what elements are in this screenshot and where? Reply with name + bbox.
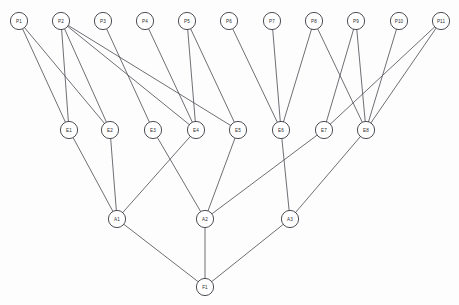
node-f1[interactable]: F1 [196, 278, 213, 295]
node-label-e7: E7 [321, 128, 327, 133]
node-p4[interactable]: P4 [136, 12, 153, 29]
graph-svg: P1P2P3P4P5P6P7P8P9P10P11E1E2E3E4E5E6E7E8… [0, 0, 459, 305]
node-label-p11: P11 [437, 19, 445, 24]
node-label-a1: A1 [114, 217, 120, 222]
node-e6[interactable]: E6 [272, 121, 289, 138]
node-a2[interactable]: A2 [196, 210, 213, 227]
edge-e1-to-a1 [73, 138, 113, 212]
edge-a3-to-f1 [212, 224, 284, 281]
node-label-e4: E4 [193, 128, 199, 133]
node-label-p6: P6 [226, 19, 232, 24]
edge-p1-to-e1 [23, 29, 66, 122]
edge-p3-to-e3 [107, 29, 150, 122]
node-p1[interactable]: P1 [10, 12, 27, 29]
edge-e2-to-a1 [111, 139, 117, 211]
node-label-e1: E1 [66, 128, 72, 133]
node-p9[interactable]: P9 [347, 12, 364, 29]
edge-p5-to-e4 [188, 30, 196, 122]
edge-p2-to-e5 [68, 26, 230, 126]
edges-layer [23, 26, 437, 282]
node-label-p10: P10 [395, 19, 404, 24]
node-label-p9: P9 [353, 19, 359, 24]
node-p3[interactable]: P3 [94, 12, 111, 29]
edge-p2-to-e1 [62, 30, 69, 122]
edge-p7-to-e6 [273, 30, 281, 122]
node-p6[interactable]: P6 [220, 12, 237, 29]
node-a1[interactable]: A1 [108, 210, 125, 227]
node-label-f1: F1 [202, 285, 208, 290]
node-p11[interactable]: P11 [432, 12, 449, 29]
node-e3[interactable]: E3 [144, 121, 161, 138]
edge-p2-to-e2 [65, 29, 107, 122]
edge-e8-to-a3 [296, 137, 361, 213]
node-label-p3: P3 [100, 19, 106, 24]
node-p8[interactable]: P8 [305, 12, 322, 29]
edge-e4-to-a1 [123, 136, 191, 212]
edge-p9-to-e7 [326, 29, 353, 122]
node-label-p8: P8 [311, 19, 317, 24]
node-label-e3: E3 [150, 128, 156, 133]
edge-p9-to-e8 [357, 30, 365, 122]
node-label-e6: E6 [278, 128, 284, 133]
edge-p11-to-e7 [330, 27, 434, 124]
node-label-p1: P1 [16, 19, 22, 24]
edge-p8-to-e6 [283, 29, 311, 122]
edge-p6-to-e6 [233, 29, 278, 122]
edge-a1-to-f1 [124, 224, 198, 281]
node-label-e2: E2 [107, 128, 113, 133]
node-e4[interactable]: E4 [187, 121, 204, 138]
node-p7[interactable]: P7 [263, 12, 280, 29]
node-label-p4: P4 [142, 19, 148, 24]
node-e2[interactable]: E2 [101, 121, 118, 138]
edge-p5-to-e5 [191, 29, 235, 122]
node-e8[interactable]: E8 [357, 121, 374, 138]
node-label-a2: A2 [202, 217, 208, 222]
edge-p4-to-e4 [149, 29, 193, 122]
node-e1[interactable]: E1 [60, 121, 77, 138]
node-p2[interactable]: P2 [52, 12, 69, 29]
node-e7[interactable]: E7 [315, 121, 332, 138]
node-a3[interactable]: A3 [281, 210, 298, 227]
edge-p1-to-e2 [25, 28, 105, 124]
diagram-canvas: P1P2P3P4P5P6P7P8P9P10P11E1E2E3E4E5E6E7E8… [0, 0, 459, 305]
node-p5[interactable]: P5 [178, 12, 195, 29]
edge-e6-to-a3 [282, 139, 289, 211]
edge-e7-to-a2 [212, 135, 317, 214]
node-e5[interactable]: E5 [229, 121, 246, 138]
node-label-e8: E8 [363, 128, 369, 133]
edge-p11-to-e8 [371, 28, 436, 123]
node-label-a3: A3 [287, 217, 293, 222]
node-label-p5: P5 [184, 19, 190, 24]
node-p10[interactable]: P10 [390, 12, 407, 29]
node-label-e5: E5 [235, 128, 241, 133]
node-label-p7: P7 [269, 19, 275, 24]
node-label-p2: P2 [58, 19, 64, 24]
